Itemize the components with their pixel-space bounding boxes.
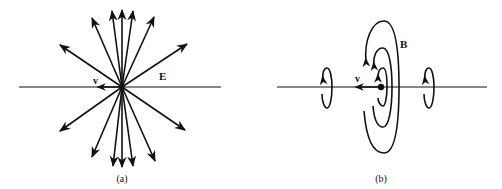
panel-b-magnetic-field: v B (b): [277, 21, 487, 185]
b-field-label: B: [400, 38, 408, 50]
caption-b: (b): [375, 173, 387, 185]
figure-canvas: v E (a) v B (b): [0, 0, 502, 189]
velocity-label-b: v: [355, 73, 360, 84]
velocity-label-a: v: [93, 75, 98, 86]
point-charge-b: [378, 84, 384, 90]
panel-a-electric-field: v E (a): [19, 10, 221, 185]
caption-a: (a): [116, 173, 127, 185]
e-field-label: E: [159, 70, 166, 82]
point-charge: [120, 85, 125, 90]
